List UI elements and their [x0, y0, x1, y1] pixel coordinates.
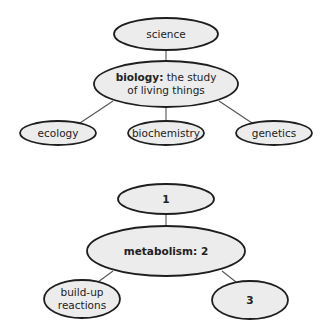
edge-biology-genetics — [219, 101, 252, 123]
label-1: 1 — [162, 193, 169, 206]
biology-term: biology: — [116, 71, 164, 83]
label-3: 3 — [246, 294, 253, 307]
biology-definition-line2: of living things — [116, 84, 217, 97]
label-genetics: genetics — [252, 127, 297, 140]
buildup-line1: build-up — [58, 286, 106, 299]
edge-metabolism-3 — [222, 271, 236, 282]
edge-metabolism-buildup — [98, 271, 113, 282]
label-ecology: ecology — [38, 127, 79, 140]
buildup-line2: reactions — [58, 299, 106, 312]
concept-map-canvas: science biology: the study of living thi… — [0, 0, 325, 330]
label-biology: biology: the study of living things — [116, 71, 217, 97]
label-buildup-reactions: build-up reactions — [58, 286, 106, 312]
label-science: science — [146, 28, 186, 41]
label-biochemistry: biochemistry — [132, 127, 200, 140]
biology-definition-line1: the study — [167, 71, 217, 83]
label-metabolism: metabolism: 2 — [124, 245, 208, 258]
concept-map-graphics — [0, 0, 325, 330]
edge-biology-ecology — [80, 101, 113, 123]
